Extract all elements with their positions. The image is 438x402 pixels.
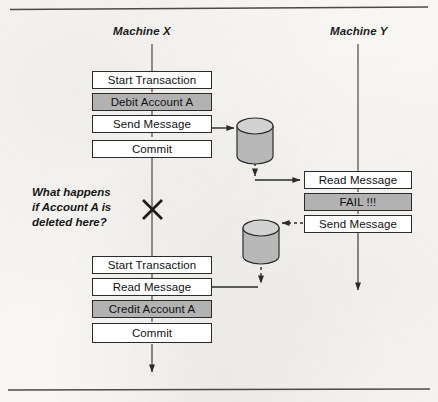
node-y-read-message[interactable]: Read Message	[304, 171, 412, 189]
node-x-read-message[interactable]: Read Message	[92, 278, 212, 296]
annotation-note-line-2: if Account A is	[32, 200, 142, 215]
node-y-send-message[interactable]: Send Message	[304, 215, 412, 233]
figure-canvas: Machine X Machine Y Start Transaction De…	[0, 0, 438, 402]
node-x-commit-lower[interactable]: Commit	[92, 323, 212, 343]
annotation-note-line-1: What happens	[32, 185, 142, 200]
queue-top-cylinder	[234, 117, 276, 165]
node-x-commit-upper[interactable]: Commit	[92, 140, 212, 158]
queue-bottom-cylinder	[240, 219, 282, 265]
node-x-credit-account-a[interactable]: Credit Account A	[92, 300, 212, 318]
node-x-send-message[interactable]: Send Message	[92, 115, 212, 133]
lane-label-machine-y: Machine Y	[330, 25, 388, 37]
annotation-note-line-3: deleted here?	[32, 215, 142, 230]
node-x-start-transaction-lower[interactable]: Start Transaction	[92, 256, 212, 274]
lane-label-machine-x: Machine X	[113, 25, 171, 37]
node-y-fail[interactable]: FAIL !!!	[304, 193, 412, 211]
annotation-note: What happens if Account A is deleted her…	[32, 185, 142, 230]
node-x-start-transaction[interactable]: Start Transaction	[92, 71, 212, 89]
node-x-debit-account-a[interactable]: Debit Account A	[92, 93, 212, 111]
